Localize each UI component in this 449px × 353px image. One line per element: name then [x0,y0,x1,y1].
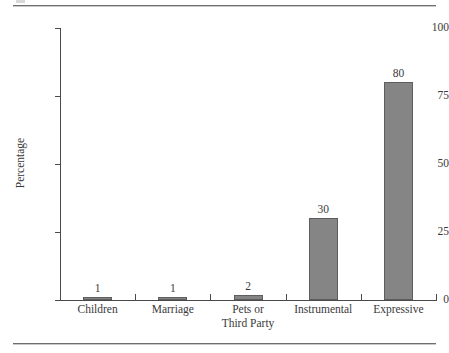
bar-value-label: 30 [293,203,353,215]
x-tick-mark [135,294,136,301]
bar-value-label: 1 [143,282,203,294]
x-tick-mark [361,294,362,301]
y-tick-mark [55,28,60,29]
x-tick-mark [210,294,211,301]
bar-value-label: 2 [218,280,278,292]
bar[interactable] [234,295,263,300]
x-category-label: Marriage [135,303,210,317]
x-category-label-line2: Third Party [222,317,275,329]
y-tick-mark [55,232,60,233]
x-category-label: Expressive [361,303,436,317]
x-category-label: Pets orThird Party [210,303,285,330]
bar-value-label: 1 [68,282,128,294]
y-tick-label: 100 [403,22,449,34]
y-axis-line [60,28,61,300]
x-tick-mark [60,294,61,301]
x-axis-line [60,300,436,301]
y-tick-mark [55,164,60,165]
bar[interactable] [309,218,338,300]
bar[interactable] [83,297,112,300]
y-tick-mark [55,96,60,97]
bar-value-label: 80 [368,67,428,79]
x-tick-mark [436,294,437,301]
bar[interactable] [158,297,187,300]
bar-chart: Percentage 0255075100 1Children1Marriage… [0,0,449,353]
bar[interactable] [384,82,413,300]
x-tick-mark [286,294,287,301]
x-category-label: Instrumental [286,303,361,317]
x-category-label: Children [60,303,135,317]
y-axis-title: Percentage [14,113,26,213]
